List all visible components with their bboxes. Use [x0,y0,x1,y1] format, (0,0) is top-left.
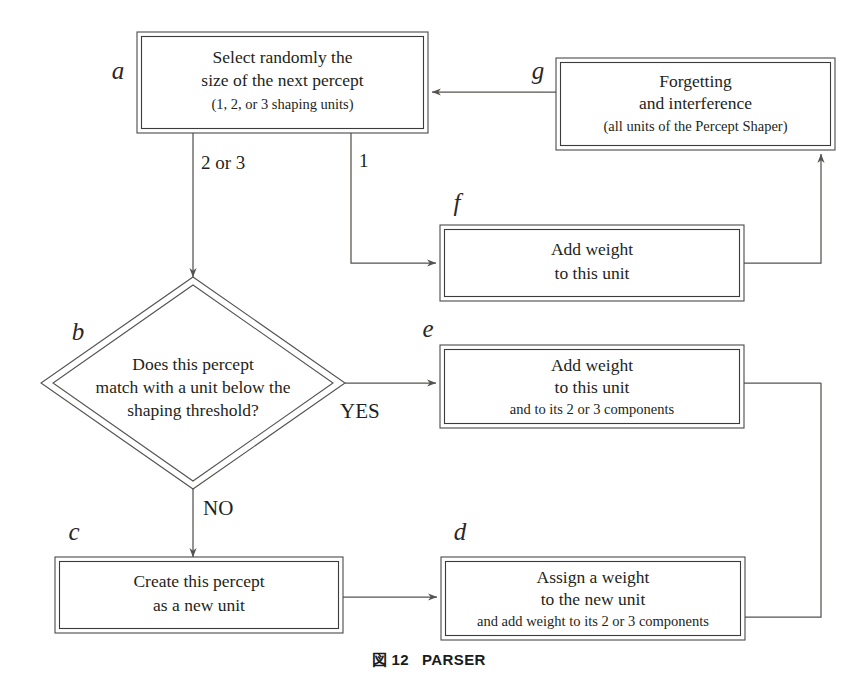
node-c-tag: c [68,518,79,545]
node-f-line1: Add weight [551,239,633,259]
node-g[interactable]: Forgetting and interference (all units o… [556,58,835,150]
node-d-line2: to the new unit [541,589,646,609]
connector-f-to-g [744,154,821,263]
node-c-line1: Create this percept [133,571,264,591]
node-f[interactable]: Add weight to this unit [440,225,744,301]
node-e[interactable]: Add weight to this unit and to its 2 or … [440,345,744,428]
node-c[interactable]: Create this percept as a new unit [55,557,343,633]
node-e-tag: e [422,315,433,342]
node-d-line1: Assign a weight [537,567,650,587]
parser-flowchart: Select randomly the size of the next per… [0,0,858,685]
caption-figure-word: 図 [372,651,387,668]
edge-label-a-to-f: 1 [359,150,369,171]
connector-d-to-g [745,383,821,617]
node-a-line3: (1, 2, or 3 shaping units) [211,96,353,113]
node-d-line3: and add weight to its 2 or 3 components [477,613,709,629]
node-e-line1: Add weight [551,355,633,375]
figure-caption: 図12PARSER [0,648,858,669]
node-d[interactable]: Assign a weight to the new unit and add … [441,557,745,640]
node-b-line2: match with a unit below the [96,377,291,397]
node-b[interactable]: Does this percept match with a unit belo… [41,277,345,489]
node-f-tag: f [454,189,464,216]
edge-label-a-to-b: 2 or 3 [201,152,245,173]
edge-label-b-yes: YES [340,399,380,423]
node-g-line1: Forgetting [659,71,732,91]
node-e-line3: and to its 2 or 3 components [510,401,675,417]
node-a-tag: a [112,57,125,84]
node-a-line2: size of the next percept [201,70,363,90]
node-f-line2: to this unit [555,263,630,283]
node-b-line1: Does this percept [132,354,254,374]
figure-root: Select randomly the size of the next per… [0,0,858,685]
node-b-line3: shaping threshold? [127,400,259,420]
node-g-tag: g [532,57,545,84]
caption-figure-number: 12 [392,651,410,668]
node-a-line1: Select randomly the [213,47,353,67]
node-c-line2: as a new unit [153,595,245,615]
node-d-tag: d [454,518,467,545]
caption-title: PARSER [422,651,486,668]
node-e-line2: to this unit [555,377,630,397]
node-g-line3: (all units of the Percept Shaper) [603,118,787,135]
node-b-tag: b [72,318,85,345]
node-g-line2: and interference [639,93,752,113]
edge-label-b-no: NO [203,496,233,520]
node-a[interactable]: Select randomly the size of the next per… [137,32,428,133]
